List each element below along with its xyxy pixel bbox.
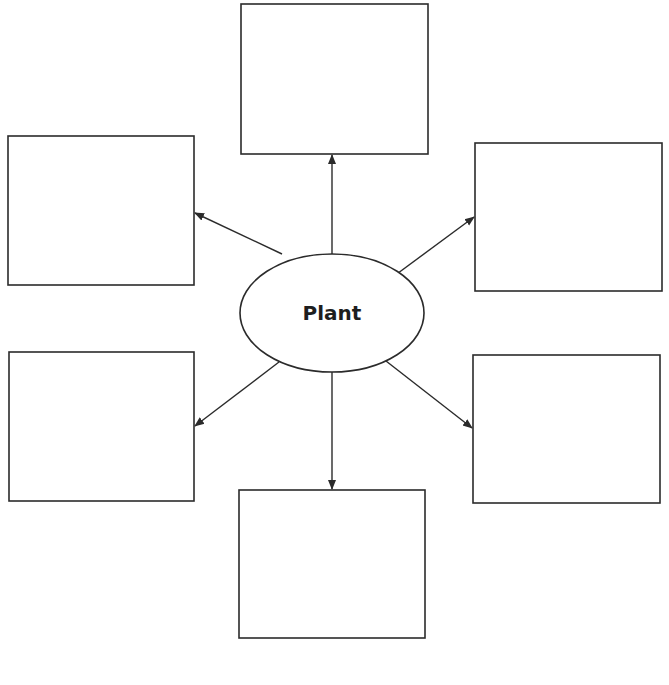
center-node: Plant: [240, 254, 424, 372]
center-label: Plant: [303, 301, 362, 325]
answer-box-top: [241, 4, 428, 154]
answer-box-top-right: [475, 143, 662, 291]
answer-box-bottom-left: [9, 352, 194, 501]
arrow-to-top-left: [195, 213, 282, 254]
arrow-to-bottom-left: [195, 362, 279, 426]
answer-box-bottom-right: [473, 355, 660, 503]
concept-web-diagram: Plant: [0, 0, 669, 685]
answer-box-top-left: [8, 136, 194, 285]
arrow-to-bottom-right: [386, 361, 472, 428]
answer-box-bottom: [239, 490, 425, 638]
